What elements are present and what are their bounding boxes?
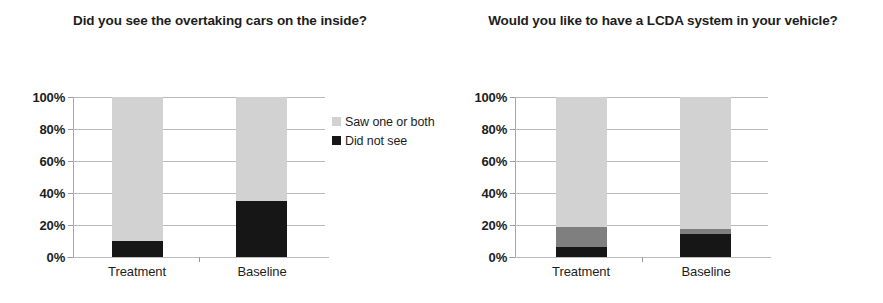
chart-panel-overtaking-cars: Did you see the overtaking cars on the i…: [0, 0, 441, 303]
gridline-100: [73, 97, 325, 98]
plot-area-left: 100% 80% 60% 40% 20% 0%: [73, 97, 325, 257]
ytick-mark-20: [68, 225, 73, 226]
plot-area-right: 100% 80% 60% 40% 20% 0%: [515, 97, 768, 257]
bar-segment-yes[interactable]: [680, 97, 731, 229]
legend-swatch-icon: [332, 136, 341, 145]
ytick-label-20: 20%: [40, 218, 65, 233]
ytick-label-0: 0%: [489, 250, 507, 265]
chart-panel-lcda-system: Would you like to have a LCDA system in …: [441, 0, 883, 303]
y-axis-line: [73, 97, 74, 257]
ytick-label-60: 60%: [482, 154, 507, 169]
ytick-label-80: 80%: [482, 122, 507, 137]
y-axis-line: [515, 97, 516, 257]
ytick-mark-100: [510, 97, 515, 98]
legend-item-did-not-see[interactable]: Did not see: [332, 133, 436, 149]
legend-label: Saw one or both: [345, 114, 435, 130]
bar-segment-did-not-see[interactable]: [236, 201, 287, 257]
ytick-label-100: 100%: [475, 90, 507, 105]
bar-segment-yes[interactable]: [556, 97, 607, 227]
xtick-label-treatment: Treatment: [552, 264, 610, 279]
ytick-label-60: 60%: [40, 154, 65, 169]
legend-item-saw-one-or-both[interactable]: Saw one or both: [332, 114, 436, 130]
gridline-80: [73, 129, 325, 130]
ytick-mark-80: [510, 129, 515, 130]
x-axis-line: [67, 257, 329, 258]
bar-segment-no[interactable]: [680, 234, 731, 257]
ytick-mark-20: [510, 225, 515, 226]
bar-segment-i-do-not-know[interactable]: [680, 229, 731, 234]
bar-segment-no[interactable]: [556, 247, 607, 257]
ytick-label-100: 100%: [33, 90, 65, 105]
bar-segment-i-do-not-know[interactable]: [556, 227, 607, 247]
bar-segment-saw-one-or-both[interactable]: [112, 97, 163, 241]
xtick-mark-divider: [642, 257, 643, 262]
ytick-label-0: 0%: [47, 250, 65, 265]
ytick-mark-0: [68, 257, 73, 258]
gridline-40: [73, 193, 325, 194]
ytick-mark-100: [68, 97, 73, 98]
xtick-mark-divider: [199, 257, 200, 262]
chart-title: Would you like to have a LCDA system in …: [465, 12, 861, 31]
ytick-mark-60: [510, 161, 515, 162]
bar-segment-did-not-see[interactable]: [112, 241, 163, 257]
ytick-mark-60: [68, 161, 73, 162]
legend-label: Did not see: [345, 133, 407, 149]
legend-swatch-icon: [332, 117, 341, 126]
ytick-label-80: 80%: [40, 122, 65, 137]
ytick-mark-80: [68, 129, 73, 130]
xtick-label-baseline: Baseline: [237, 264, 286, 279]
ytick-mark-40: [68, 193, 73, 194]
ytick-label-40: 40%: [482, 186, 507, 201]
ytick-label-40: 40%: [40, 186, 65, 201]
chart-title: Did you see the overtaking cars on the i…: [22, 12, 418, 31]
gridline-60: [73, 161, 325, 162]
ytick-mark-40: [510, 193, 515, 194]
charts-row: Did you see the overtaking cars on the i…: [0, 0, 883, 303]
xtick-label-treatment: Treatment: [108, 264, 166, 279]
x-axis-line: [509, 257, 771, 258]
bar-segment-saw-one-or-both[interactable]: [236, 97, 287, 201]
xtick-label-baseline: Baseline: [681, 264, 730, 279]
legend-left: Saw one or both Did not see: [332, 114, 436, 152]
gridline-20: [73, 225, 325, 226]
ytick-mark-0: [510, 257, 515, 258]
ytick-label-20: 20%: [482, 218, 507, 233]
